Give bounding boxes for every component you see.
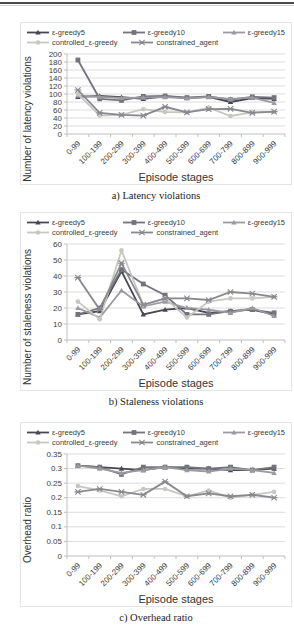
y-tick-label: 0.05	[46, 537, 62, 546]
legend-label: ε-greedy15	[248, 218, 285, 227]
legend-item: ε-greedy15	[223, 428, 285, 437]
series-marker-icon	[223, 428, 245, 437]
y-tick-label: 20	[53, 122, 62, 131]
y-tick-label: 160	[49, 66, 63, 75]
y-tick-label: 50	[53, 256, 62, 265]
latency-chart-box: ε-greedy5ε-greedy10ε-greedy15controlled_…	[20, 22, 292, 185]
overhead-chart-box: ε-greedy5ε-greedy10ε-greedy15controlled_…	[20, 422, 292, 607]
y-tick-label: 0.35	[46, 450, 62, 459]
legend-item: ε-greedy5	[27, 218, 85, 227]
legend-row: controlled_ε-greedyconstrained_agent	[27, 228, 285, 237]
series-marker-icon	[131, 38, 153, 47]
page-top-rule-echo	[0, 5, 294, 6]
staleness-plot: 01020304050600-99100-199200-299300-39940…	[21, 238, 291, 390]
legend-item: ε-greedy15	[223, 218, 285, 227]
legend-row: controlled_ε-greedyconstrained_agent	[27, 438, 285, 447]
staleness-violations-figure: ε-greedy5ε-greedy10ε-greedy15controlled_…	[20, 212, 292, 407]
legend-item: constrained_agent	[131, 38, 218, 47]
x-tick-label: 0-99	[65, 561, 83, 579]
legend-item: ε-greedy10	[123, 218, 185, 227]
x-axis-title: Episode stages	[138, 593, 214, 605]
series-marker-icon	[123, 218, 145, 227]
overhead-plot: 00.050.10.150.20.250.30.350-99100-199200…	[21, 448, 291, 606]
series-marker-icon	[27, 438, 49, 447]
legend-label: constrained_agent	[156, 228, 218, 237]
legend-label: ε-greedy5	[52, 218, 85, 227]
y-tick-label: 100	[49, 90, 63, 99]
y-tick-label: 0.2	[51, 493, 63, 502]
y-tick-label: 0.1	[51, 522, 63, 531]
legend-label: controlled_ε-greedy	[52, 438, 117, 447]
overhead-ratio-figure: ε-greedy5ε-greedy10ε-greedy15controlled_…	[20, 422, 292, 623]
legend-label: constrained_agent	[156, 38, 218, 47]
legend-item: controlled_ε-greedy	[27, 438, 117, 447]
legend-label: ε-greedy5	[52, 28, 85, 37]
legend-item: ε-greedy10	[123, 28, 185, 37]
series-marker-icon	[27, 428, 49, 437]
y-tick-label: 140	[49, 74, 63, 83]
legend-label: controlled_ε-greedy	[52, 38, 117, 47]
y-tick-label: 0	[58, 336, 63, 345]
series-marker-icon	[27, 228, 49, 237]
legend-item: ε-greedy5	[27, 428, 85, 437]
legend-item: ε-greedy10	[123, 428, 185, 437]
legend-item: ε-greedy15	[223, 28, 285, 37]
legend-label: ε-greedy15	[248, 428, 285, 437]
series-marker-icon	[123, 28, 145, 37]
series-marker-icon	[27, 28, 49, 37]
legend-row: ε-greedy5ε-greedy10ε-greedy15	[27, 218, 285, 227]
y-tick-label: 120	[49, 82, 63, 91]
legend-label: ε-greedy15	[248, 28, 285, 37]
y-tick-label: 60	[53, 240, 62, 249]
chart-legend: ε-greedy5ε-greedy10ε-greedy15controlled_…	[21, 25, 291, 48]
legend-item: ε-greedy5	[27, 28, 85, 37]
latency-violations-figure: ε-greedy5ε-greedy10ε-greedy15controlled_…	[20, 22, 292, 201]
series-line	[78, 482, 274, 498]
legend-label: constrained_agent	[156, 438, 218, 447]
legend-item: constrained_agent	[131, 228, 218, 237]
chart-caption: a) Latency violations	[20, 190, 292, 201]
series-marker-icon	[27, 218, 49, 227]
series-marker-icon	[223, 218, 245, 227]
y-tick-label: 200	[49, 50, 63, 59]
y-tick-label: 40	[53, 272, 62, 281]
latency-plot: 0204060801001201401601802000-99100-19920…	[21, 48, 291, 184]
y-tick-label: 80	[53, 98, 62, 107]
legend-item: controlled_ε-greedy	[27, 38, 117, 47]
legend-label: ε-greedy10	[148, 218, 185, 227]
staleness-chart-box: ε-greedy5ε-greedy10ε-greedy15controlled_…	[20, 212, 292, 391]
legend-row: ε-greedy5ε-greedy10ε-greedy15	[27, 428, 285, 437]
y-tick-label: 30	[53, 288, 62, 297]
y-tick-label: 60	[53, 106, 62, 115]
series-line	[78, 263, 274, 309]
x-tick-label: 900-999	[251, 561, 279, 589]
series-marker-icon	[223, 28, 245, 37]
y-tick-label: 0.15	[46, 508, 62, 517]
page-top-rule	[0, 2, 294, 4]
series-marker-icon	[123, 428, 145, 437]
chart-caption: b) Staleness violations	[20, 396, 292, 407]
x-tick-label: 900-999	[251, 345, 279, 373]
y-tick-label: 20	[53, 304, 62, 313]
y-tick-label: 180	[49, 58, 63, 67]
x-tick-label: 0-99	[65, 139, 83, 157]
y-tick-label: 0	[58, 130, 63, 139]
chart-legend: ε-greedy5ε-greedy10ε-greedy15controlled_…	[21, 425, 291, 448]
y-tick-label: 10	[53, 320, 62, 329]
series-marker-icon	[131, 438, 153, 447]
paper-page: ε-greedy5ε-greedy10ε-greedy15controlled_…	[0, 0, 294, 638]
y-tick-label: 40	[53, 114, 62, 123]
chart-caption: c) Overhead ratio	[20, 612, 292, 623]
legend-row: controlled_ε-greedyconstrained_agent	[27, 38, 285, 47]
y-tick-label: 0	[58, 552, 63, 561]
legend-label: controlled_ε-greedy	[52, 228, 117, 237]
x-axis-title: Episode stages	[138, 171, 214, 183]
legend-label: ε-greedy5	[52, 428, 85, 437]
legend-row: ε-greedy5ε-greedy10ε-greedy15	[27, 28, 285, 37]
y-axis-title: Overhead ratio	[22, 496, 33, 563]
legend-item: constrained_agent	[131, 438, 218, 447]
legend-label: ε-greedy10	[148, 428, 185, 437]
y-axis-title: Number of staleness violations	[22, 249, 33, 385]
y-axis-title: Number of latency violations	[22, 56, 33, 182]
chart-legend: ε-greedy5ε-greedy10ε-greedy15controlled_…	[21, 215, 291, 238]
